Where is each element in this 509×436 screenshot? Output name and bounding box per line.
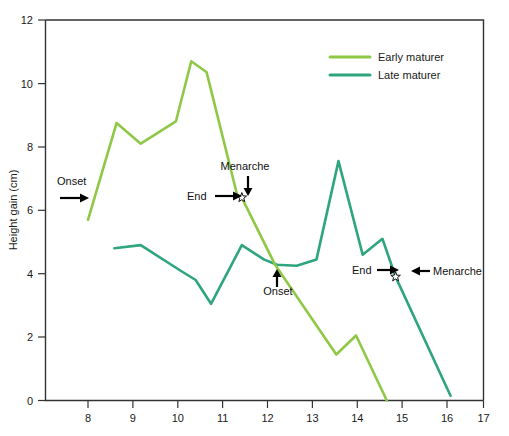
annotation-early-onset: Onset [57,175,89,203]
annotation-label-late-end: End [352,264,372,276]
y-tick-label-2: 2 [27,331,33,343]
x-tick-label-11: 11 [217,412,228,424]
arrow-head-left-icon [411,267,420,276]
annotation-early-menarche: Menarche [221,160,270,196]
y-tick-label-0: 0 [27,395,33,407]
line-chart: 0 2 4 6 8 10 12 Height gain (cm) 8 9 10 [0,0,509,436]
y-axis-title: Height gain (cm) [7,170,19,251]
x-tick-label-17: 17 [477,412,489,424]
x-tick-label-10: 10 [172,412,184,424]
legend: Early maturer Late maturer [330,51,444,81]
series-group [88,61,451,400]
y-tick-label-10: 10 [21,78,33,90]
x-tick-label-16: 16 [441,412,453,424]
legend-label-late-maturer: Late maturer [378,69,441,81]
chart-container: 0 2 4 6 8 10 12 Height gain (cm) 8 9 10 [0,0,509,436]
x-axis-ticks [88,401,484,409]
annotation-label-early-menarche: Menarche [221,160,270,172]
annotation-early-end: End [187,190,242,202]
y-axis-ticks [38,20,46,401]
series-line-late-maturer [114,161,450,396]
x-tick-label-13: 13 [306,412,318,424]
annotation-late-menarche: Menarche [411,265,482,277]
annotation-label-early-end: End [187,190,207,202]
x-tick-label-14: 14 [351,412,363,424]
x-tick-label-15: 15 [396,412,408,424]
y-tick-label-8: 8 [27,141,33,153]
annotation-label-early-onset: Onset [57,175,86,187]
arrow-head-right-icon [80,194,89,203]
annotation-label-late-menarche: Menarche [433,265,482,277]
y-tick-label-4: 4 [27,268,33,280]
y-axis-tick-labels: 0 2 4 6 8 10 12 [21,14,33,407]
x-tick-label-8: 8 [85,412,91,424]
arrow-head-down-icon [244,188,253,196]
x-axis-tick-labels: 8 9 10 11 12 13 14 15 16 17 [85,412,490,424]
legend-label-early-maturer: Early maturer [378,51,444,63]
series-line-early-maturer [88,61,387,400]
y-tick-label-12: 12 [21,14,33,26]
x-tick-label-12: 12 [261,412,273,424]
x-tick-label-9: 9 [130,412,136,424]
y-tick-label-6: 6 [27,204,33,216]
